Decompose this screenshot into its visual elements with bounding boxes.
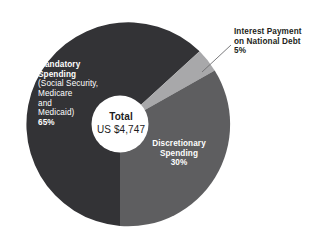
- slice-percent-interest-payment: 5%: [234, 46, 326, 56]
- leader-line-interest-payment: [202, 45, 231, 72]
- slice-percent-discretionary-spending: 30%: [140, 158, 218, 168]
- slice-label-line-1: Discretionary: [140, 139, 218, 149]
- slice-label-line-1: Interest Payment: [234, 27, 326, 37]
- slice-sublabel-line-3: and: [38, 99, 124, 109]
- slice-label-line-2: on National Debt: [234, 37, 326, 47]
- donut-chart: Mandatory Spending (Social Security, Med…: [0, 0, 328, 248]
- slice-label-line-1: Mandatory: [38, 60, 124, 70]
- donut-center-value: US $4,747: [92, 124, 150, 136]
- slice-label-interest-payment: Interest Payment on National Debt 5%: [234, 27, 326, 56]
- donut-center-label: Total US $4,747: [92, 111, 150, 136]
- slice-sublabel-line-2: Medicare: [38, 89, 124, 99]
- slice-label-line-2: Spending: [38, 70, 124, 80]
- slice-label-line-2: Spending: [140, 149, 218, 159]
- donut-center-title: Total: [92, 111, 150, 123]
- slice-label-discretionary-spending: Discretionary Spending 30%: [140, 139, 218, 168]
- slice-sublabel-line-1: (Social Security,: [38, 79, 124, 89]
